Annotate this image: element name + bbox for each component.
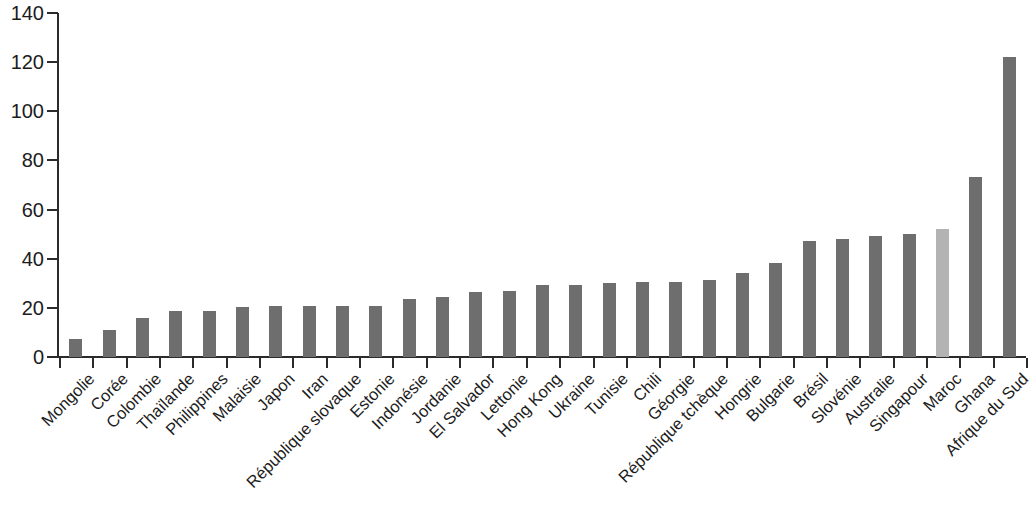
bar bbox=[703, 280, 716, 357]
bar bbox=[236, 307, 249, 357]
bar bbox=[136, 318, 149, 357]
bar-chart: 020406080100120140 MongolieCoréeColombie… bbox=[0, 0, 1034, 515]
y-axis-tick bbox=[47, 159, 58, 161]
y-axis-tick-label: 80 bbox=[0, 150, 44, 170]
bar bbox=[669, 282, 682, 357]
y-axis-tick-label: 140 bbox=[0, 3, 44, 23]
y-axis-tick-label: 20 bbox=[0, 298, 44, 318]
bar bbox=[203, 311, 216, 357]
bar bbox=[569, 285, 582, 357]
y-axis-tick bbox=[47, 258, 58, 260]
bar bbox=[636, 282, 649, 357]
bar bbox=[269, 306, 282, 357]
x-axis-labels: MongolieCoréeColombieThaïlandePhilippine… bbox=[0, 358, 1034, 515]
bar bbox=[336, 306, 349, 357]
y-axis-tick-label: 40 bbox=[0, 249, 44, 269]
bar bbox=[803, 241, 816, 357]
bar bbox=[103, 330, 116, 357]
bar bbox=[836, 239, 849, 357]
y-axis-tick bbox=[47, 307, 58, 309]
y-axis-tick bbox=[47, 209, 58, 211]
bar bbox=[469, 292, 482, 357]
bar bbox=[303, 306, 316, 357]
bar bbox=[603, 283, 616, 357]
bars-container bbox=[59, 13, 1026, 357]
bar bbox=[69, 339, 82, 357]
bar bbox=[369, 306, 382, 357]
y-axis-tick bbox=[47, 12, 58, 14]
y-axis-tick bbox=[47, 110, 58, 112]
y-axis-tick-label: 60 bbox=[0, 200, 44, 220]
bar bbox=[403, 299, 416, 357]
y-axis-tick bbox=[47, 61, 58, 63]
bar bbox=[536, 285, 549, 357]
bar bbox=[769, 263, 782, 357]
bar bbox=[1003, 57, 1016, 357]
bar bbox=[503, 291, 516, 357]
bar bbox=[869, 236, 882, 357]
y-axis-tick-label: 100 bbox=[0, 101, 44, 121]
bar bbox=[169, 311, 182, 357]
y-axis-tick-label: 120 bbox=[0, 52, 44, 72]
bar bbox=[736, 273, 749, 357]
bar bbox=[436, 297, 449, 357]
bar bbox=[969, 177, 982, 357]
bar bbox=[936, 229, 949, 357]
bar bbox=[903, 234, 916, 357]
